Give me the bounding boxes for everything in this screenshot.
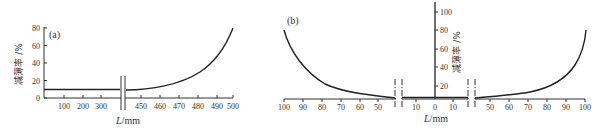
chart-b-ytick: 40 bbox=[440, 63, 448, 72]
chart-a-axis-break bbox=[121, 76, 125, 110]
chart-b-xtick: 70 bbox=[524, 103, 532, 112]
chart-b-xlabel: L/mm bbox=[423, 113, 448, 124]
chart-a-ytick: 20 bbox=[32, 77, 40, 86]
chart-a-xtick: 500 bbox=[227, 102, 239, 111]
chart-a-series-curve bbox=[126, 28, 233, 90]
chart-b-xtick: 80 bbox=[543, 103, 551, 112]
figure: 0 20 40 60 80 减薄率 /% (a) 100 200 300 450… bbox=[0, 0, 607, 132]
chart-a-ytick: 60 bbox=[32, 42, 40, 51]
chart-b-xtick: 90 bbox=[299, 103, 307, 112]
chart-b-xtick: 50 bbox=[486, 103, 494, 112]
chart-a-ylabel: 减薄率 /% bbox=[13, 43, 24, 85]
chart-b-xtick: 90 bbox=[562, 103, 570, 112]
chart-b-xtick: 70 bbox=[337, 103, 345, 112]
chart-b-axis-break-right bbox=[468, 79, 475, 108]
chart-b-xtick: 80 bbox=[318, 103, 326, 112]
chart-b-axis-break-left bbox=[395, 79, 402, 108]
chart-a-xtick: 480 bbox=[192, 102, 204, 111]
chart-b-panel-label: (b) bbox=[287, 15, 299, 27]
chart-a-xtick: 470 bbox=[173, 102, 185, 111]
chart-a-xlabel: L/mm bbox=[115, 115, 140, 126]
chart-b-xtick: 60 bbox=[505, 103, 513, 112]
chart-b-ytick: 80 bbox=[440, 26, 448, 35]
chart-a-xtick: 450 bbox=[135, 102, 147, 111]
chart-a-ytick: 80 bbox=[32, 24, 40, 33]
chart-a-panel-label: (a) bbox=[49, 29, 60, 41]
chart-a-xtick: 300 bbox=[95, 102, 107, 111]
chart-b-ytick: 20 bbox=[440, 82, 448, 91]
chart-b-xtick: 10 bbox=[449, 103, 457, 112]
chart-b-xtick: 100 bbox=[278, 103, 290, 112]
chart-b-ytick: 60 bbox=[440, 45, 448, 54]
chart-b-xtick: 100 bbox=[579, 103, 591, 112]
chart-b-series-left bbox=[284, 30, 395, 98]
chart-a: 0 20 40 60 80 减薄率 /% (a) 100 200 300 450… bbox=[13, 24, 239, 126]
chart-b-ytick: 100 bbox=[440, 8, 452, 17]
chart-a-ytick: 40 bbox=[32, 59, 40, 68]
chart-b-ylabel: 减薄率 /% bbox=[451, 31, 462, 73]
chart-b-xtick: 0 bbox=[433, 103, 437, 112]
chart-b-xtick: 50 bbox=[374, 103, 382, 112]
chart-a-ytick: 0 bbox=[36, 94, 40, 103]
chart-b-xtick: 60 bbox=[356, 103, 364, 112]
chart-a-xtick: 460 bbox=[154, 102, 166, 111]
chart-a-xtick: 100 bbox=[58, 102, 70, 111]
chart-a-xtick: 200 bbox=[77, 102, 89, 111]
chart-b-xtick: 10 bbox=[412, 103, 420, 112]
chart-b-series-right bbox=[475, 30, 586, 98]
chart-a-xtick: 490 bbox=[211, 102, 223, 111]
chart-b: (b) 20 40 60 80 100 减薄率 /% bbox=[278, 2, 591, 124]
